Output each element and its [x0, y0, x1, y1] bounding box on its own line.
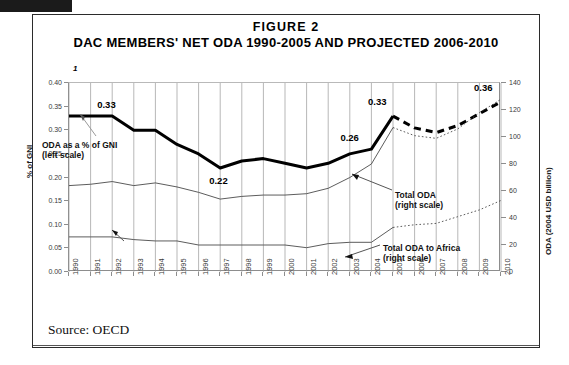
- annotation-total-oda-africa: Total ODA to Africa (right scale): [383, 243, 460, 263]
- x-axis-tick-mark: [414, 272, 415, 276]
- y-axis-left-tick-mark: [64, 177, 68, 178]
- chart-value-label: 0.33: [368, 96, 387, 107]
- x-axis-tick-label: 2002: [330, 258, 339, 275]
- y-axis-left-tick-mark: [64, 129, 68, 130]
- y-axis-left-tick-label: 0.30: [48, 126, 62, 133]
- y-axis-right-tick-mark: [501, 109, 506, 110]
- source-text: Source: OECD: [48, 322, 129, 338]
- chart-series-line: [393, 102, 501, 133]
- x-axis-tick-label: 2009: [481, 258, 490, 275]
- x-axis-tick-mark: [457, 272, 458, 276]
- y-axis-right-tick-label: 140: [509, 79, 521, 86]
- x-axis-tick-label: 1992: [114, 258, 123, 275]
- y-axis-left-tick-mark: [64, 82, 68, 83]
- annotation-total-oda-africa-line1: Total ODA to Africa: [383, 243, 460, 253]
- y-axis-left-tick-mark: [64, 247, 68, 248]
- figure-title: DAC MEMBERS' NET ODA 1990-2005 AND PROJE…: [32, 35, 540, 50]
- x-axis-tick-label: 2004: [373, 258, 382, 275]
- chart-value-label: 0.36: [474, 82, 493, 93]
- x-axis-tick-mark: [327, 272, 328, 276]
- x-axis-tick-mark: [133, 272, 134, 276]
- x-axis-tick-mark: [370, 272, 371, 276]
- x-axis-tick-mark: [198, 272, 199, 276]
- x-axis-tick-label: 1990: [71, 258, 80, 275]
- x-axis-tick-label: 2010: [503, 258, 512, 275]
- x-axis-tick-label: 1994: [157, 258, 166, 275]
- y-axis-right-tick-label: 40: [509, 214, 517, 221]
- annotation-oda-gni-line2: (left scale): [42, 150, 117, 160]
- x-axis-tick-mark: [392, 272, 393, 276]
- y-axis-right-tick-label: 60: [509, 187, 517, 194]
- x-axis-tick-mark: [68, 272, 69, 276]
- x-axis-tick-mark: [90, 272, 91, 276]
- y-axis-right-tick-label: 120: [509, 106, 521, 113]
- y-axis-right-tick-mark: [501, 190, 506, 191]
- x-axis-tick-mark: [284, 272, 285, 276]
- x-axis-tick-mark: [154, 272, 155, 276]
- x-axis-tick-mark: [262, 272, 263, 276]
- y-axis-left-tick-mark: [64, 224, 68, 225]
- x-axis-tick-label: 2008: [460, 258, 469, 275]
- source-divider: [33, 345, 539, 346]
- y-axis-right-tick-mark: [501, 136, 506, 137]
- x-axis-tick-mark: [241, 272, 242, 276]
- x-axis-tick-label: 1996: [201, 258, 210, 275]
- figure-number: FIGURE 2: [32, 20, 540, 34]
- y-axis-right-tick-mark: [501, 244, 506, 245]
- x-axis-tick-label: 2001: [309, 258, 318, 275]
- annotation-total-oda-line2: (right scale): [395, 200, 443, 210]
- y-axis-right-tick-label: 20: [509, 241, 517, 248]
- chart-value-label: 0.26: [340, 132, 359, 143]
- page-black-bar: [0, 0, 72, 12]
- x-axis-tick-mark: [219, 272, 220, 276]
- x-axis-tick-label: 1999: [265, 258, 274, 275]
- x-axis-tick-label: 2000: [287, 258, 296, 275]
- y-axis-left-tick-label: 0.15: [48, 197, 62, 204]
- x-axis-tick-mark: [478, 272, 479, 276]
- x-axis-tick-mark: [176, 272, 177, 276]
- x-axis-tick-mark: [306, 272, 307, 276]
- y-axis-left-tick-label: 0.10: [48, 220, 62, 227]
- y-axis-left-tick-label: 0.05: [48, 244, 62, 251]
- x-axis-tick-label: 1995: [179, 258, 188, 275]
- annotation-total-oda-line1: Total ODA: [395, 190, 443, 200]
- x-axis-tick-mark: [500, 272, 501, 276]
- y-axis-left-tick-label: 0.00: [48, 268, 62, 275]
- chart-value-label: 0.33: [97, 99, 116, 110]
- chart-series-line: [393, 99, 501, 138]
- y-axis-right-tick-label: 80: [509, 160, 517, 167]
- chart-value-label: 0.22: [209, 175, 228, 186]
- x-axis-tick-mark: [349, 272, 350, 276]
- x-axis-tick-label: 1998: [244, 258, 253, 275]
- x-axis-tick-mark: [111, 272, 112, 276]
- annotation-oda-gni-line1: ODA as a % of GNI: [42, 140, 117, 150]
- y-axis-right-tick-mark: [501, 82, 506, 83]
- x-axis-tick-mark: [435, 272, 436, 276]
- y-axis-right-tick-label: 100: [509, 133, 521, 140]
- x-axis-tick-label: 1997: [222, 258, 231, 275]
- chart-series-line: [69, 227, 393, 247]
- y-axis-left-tick-mark: [64, 106, 68, 107]
- annotation-total-oda-africa-line2: (right scale): [383, 253, 460, 263]
- y-axis-right-tick-mark: [501, 163, 506, 164]
- annotation-oda-gni: ODA as a % of GNI (left scale): [42, 140, 117, 160]
- y-axis-left-tick-mark: [64, 200, 68, 201]
- y-axis-left-label: % of GNI: [25, 145, 34, 178]
- y-axis-right-label: ODA (2004 USD billion): [544, 167, 553, 255]
- footnote-marker: 1: [73, 64, 77, 73]
- y-axis-left-tick-label: 0.20: [48, 173, 62, 180]
- annotation-total-oda: Total ODA (right scale): [395, 190, 443, 210]
- y-axis-right-tick-mark: [501, 217, 506, 218]
- x-axis-tick-label: 1993: [136, 258, 145, 275]
- y-axis-left-tick-label: 0.35: [48, 102, 62, 109]
- x-axis-tick-label: 1991: [93, 258, 102, 275]
- x-axis-tick-label: 2003: [352, 258, 361, 275]
- y-axis-left-tick-label: 0.40: [48, 79, 62, 86]
